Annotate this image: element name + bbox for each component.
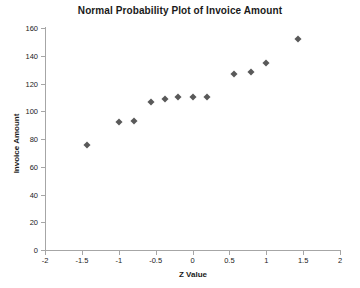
x-tick-mark bbox=[340, 250, 341, 255]
x-tick-mark bbox=[193, 250, 194, 255]
data-point bbox=[148, 98, 155, 105]
x-tick-mark bbox=[82, 250, 83, 255]
y-tick-label: 60 bbox=[30, 162, 38, 171]
x-tick-label: -0.5 bbox=[149, 256, 162, 265]
y-tick-label: 0 bbox=[34, 246, 38, 255]
x-tick-mark bbox=[119, 250, 120, 255]
chart-title: Normal Probability Plot of Invoice Amoun… bbox=[0, 5, 360, 16]
y-tick-label: 80 bbox=[30, 135, 38, 144]
x-tick-mark bbox=[45, 250, 46, 255]
data-point bbox=[131, 117, 138, 124]
x-tick-label: 2 bbox=[338, 256, 342, 265]
x-tick-label: 1.5 bbox=[298, 256, 308, 265]
x-tick-mark bbox=[266, 250, 267, 255]
y-tick-label: 40 bbox=[30, 190, 38, 199]
data-point bbox=[115, 119, 122, 126]
data-point bbox=[162, 95, 169, 102]
x-tick-mark bbox=[303, 250, 304, 255]
x-tick-mark bbox=[156, 250, 157, 255]
x-tick-label: 1 bbox=[264, 256, 268, 265]
x-axis-title: Z Value bbox=[45, 270, 341, 279]
data-point bbox=[230, 70, 237, 77]
x-tick-label: 0 bbox=[190, 256, 194, 265]
y-tick-label: 140 bbox=[25, 51, 38, 60]
data-point bbox=[83, 141, 90, 148]
x-tick-mark bbox=[229, 250, 230, 255]
data-point bbox=[175, 94, 182, 101]
y-tick-label: 160 bbox=[25, 24, 38, 33]
plot-area bbox=[45, 28, 340, 250]
x-tick-label: 0.5 bbox=[224, 256, 234, 265]
x-tick-label: -1.5 bbox=[75, 256, 88, 265]
x-tick-label: -2 bbox=[42, 256, 49, 265]
data-point bbox=[294, 36, 301, 43]
data-point bbox=[203, 94, 210, 101]
y-tick-label: 100 bbox=[25, 107, 38, 116]
normal-probability-plot: Normal Probability Plot of Invoice Amoun… bbox=[0, 0, 360, 288]
data-point bbox=[263, 59, 270, 66]
y-tick-label: 20 bbox=[30, 218, 38, 227]
y-axis-title: Invoice Amount bbox=[12, 104, 21, 184]
data-point bbox=[247, 69, 254, 76]
data-point bbox=[189, 94, 196, 101]
y-tick-label: 120 bbox=[25, 79, 38, 88]
x-tick-label: -1 bbox=[115, 256, 122, 265]
